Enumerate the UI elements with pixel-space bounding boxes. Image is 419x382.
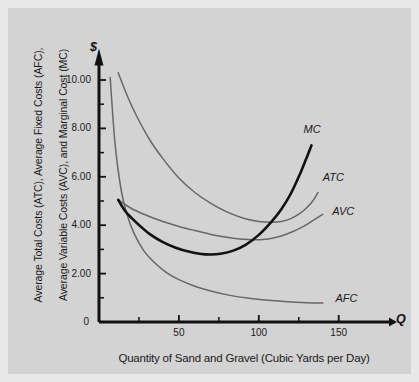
figure-screen: Average Total Costs (ATC), Average Fixed… bbox=[0, 0, 419, 382]
plot-area bbox=[0, 0, 419, 382]
cost-curves-chart: Average Total Costs (ATC), Average Fixed… bbox=[0, 0, 419, 382]
